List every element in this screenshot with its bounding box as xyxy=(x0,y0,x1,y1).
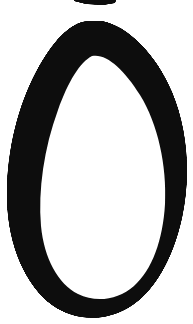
scanned-digit-canvas xyxy=(0,0,193,324)
digit-vector-artwork xyxy=(0,0,193,324)
